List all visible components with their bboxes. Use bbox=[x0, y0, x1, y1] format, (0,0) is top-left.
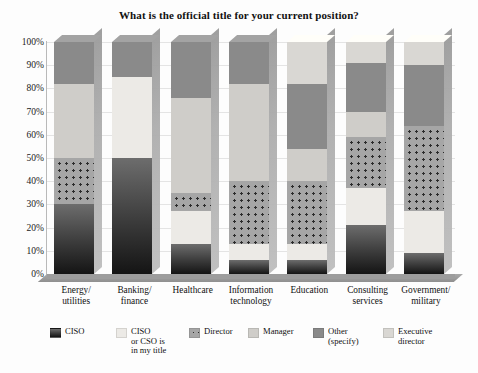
x-category-label-line: services bbox=[334, 296, 400, 307]
bar-segment-other[interactable] bbox=[54, 42, 94, 84]
bar-segment-manager[interactable] bbox=[346, 112, 386, 138]
legend-swatch-execdir bbox=[383, 328, 394, 338]
chart-title: What is the official title for your curr… bbox=[0, 9, 478, 21]
bar-segment-ciso[interactable] bbox=[171, 244, 211, 274]
dot-pattern bbox=[54, 158, 94, 204]
bar-segment-ciso[interactable] bbox=[346, 225, 386, 274]
dot-pattern bbox=[190, 329, 199, 337]
x-category-label: Healthcare bbox=[160, 285, 226, 296]
bar-top-face bbox=[346, 35, 394, 42]
y-tick-label: 80% bbox=[27, 83, 44, 93]
y-tick-label: 20% bbox=[27, 223, 44, 233]
y-tick-label: 50% bbox=[27, 153, 44, 163]
y-tick-label: 60% bbox=[27, 130, 44, 140]
bar-segment-execdir[interactable] bbox=[287, 42, 327, 84]
bar-segment-ciso[interactable] bbox=[287, 260, 327, 274]
bar-segment-manager[interactable] bbox=[287, 149, 327, 181]
bar-stack bbox=[346, 42, 386, 274]
bar-segment-manager[interactable] bbox=[54, 84, 94, 158]
bar-segment-ciso[interactable] bbox=[229, 260, 269, 274]
x-category-label-line: technology bbox=[218, 296, 284, 307]
bar-column[interactable] bbox=[404, 42, 444, 274]
bar-stack bbox=[287, 42, 327, 274]
x-category-label-line: Energy/ bbox=[43, 285, 109, 296]
bar-side-face bbox=[444, 28, 452, 274]
bar-segment-cisotitle[interactable] bbox=[229, 244, 269, 260]
bar-column[interactable] bbox=[287, 42, 327, 274]
bar-column[interactable] bbox=[229, 42, 269, 274]
bar-series-group bbox=[47, 42, 455, 274]
bar-side-face bbox=[152, 28, 160, 274]
legend-item-cisotitle[interactable]: CISO or CSO is in my title bbox=[116, 327, 166, 356]
bar-stack bbox=[229, 42, 269, 274]
bar-side-face bbox=[211, 28, 219, 274]
x-category-label-line: utilities bbox=[43, 296, 109, 307]
x-category-label-line: Education bbox=[276, 285, 342, 296]
y-tick-label: 30% bbox=[27, 199, 44, 209]
bar-segment-execdir[interactable] bbox=[404, 42, 444, 65]
y-tick-label: 70% bbox=[27, 107, 44, 117]
bar-segment-director[interactable] bbox=[54, 158, 94, 204]
bar-segment-director[interactable] bbox=[171, 193, 211, 212]
bar-segment-cisotitle[interactable] bbox=[287, 244, 327, 260]
bar-segment-other[interactable] bbox=[229, 42, 269, 84]
x-category-label: Energy/utilities bbox=[43, 285, 109, 307]
bar-segment-cisotitle[interactable] bbox=[171, 211, 211, 243]
legend-item-other[interactable]: Other (specify) bbox=[313, 327, 359, 346]
bar-segment-ciso[interactable] bbox=[404, 253, 444, 274]
chart-container: What is the official title for your curr… bbox=[0, 0, 478, 373]
legend-label-other: Other (specify) bbox=[328, 327, 359, 346]
x-category-label: Education bbox=[276, 285, 342, 296]
bar-top-face bbox=[229, 35, 277, 42]
dot-pattern bbox=[229, 181, 269, 244]
bar-segment-execdir[interactable] bbox=[346, 42, 386, 63]
bar-segment-other[interactable] bbox=[171, 42, 211, 98]
y-tick-label: 10% bbox=[27, 246, 44, 256]
bar-column[interactable] bbox=[112, 42, 152, 274]
legend-swatch-cisotitle bbox=[116, 328, 127, 338]
chart-floor-front bbox=[47, 274, 455, 279]
dot-pattern bbox=[287, 181, 327, 244]
bar-segment-ciso[interactable] bbox=[54, 204, 94, 274]
bar-segment-cisotitle[interactable] bbox=[112, 77, 152, 158]
bar-segment-other[interactable] bbox=[287, 84, 327, 149]
bar-column[interactable] bbox=[54, 42, 94, 274]
legend-item-execdir[interactable]: Executive director bbox=[383, 327, 432, 346]
bar-column[interactable] bbox=[346, 42, 386, 274]
bar-segment-other[interactable] bbox=[404, 65, 444, 125]
bar-segment-director[interactable] bbox=[346, 137, 386, 188]
legend-swatch-manager bbox=[248, 328, 259, 338]
bar-segment-director[interactable] bbox=[229, 181, 269, 244]
bar-segment-other[interactable] bbox=[112, 42, 152, 77]
legend-label-execdir: Executive director bbox=[398, 327, 432, 346]
bar-segment-other[interactable] bbox=[346, 63, 386, 112]
x-category-label-line: finance bbox=[101, 296, 167, 307]
bar-segment-director[interactable] bbox=[287, 181, 327, 244]
bar-stack bbox=[112, 42, 152, 274]
bar-segment-cisotitle[interactable] bbox=[404, 211, 444, 253]
dot-pattern bbox=[346, 137, 386, 188]
legend-item-manager[interactable]: Manager bbox=[248, 327, 294, 338]
x-category-label-line: Healthcare bbox=[160, 285, 226, 296]
bar-segment-manager[interactable] bbox=[229, 84, 269, 181]
bar-segment-ciso[interactable] bbox=[112, 158, 152, 274]
bar-column[interactable] bbox=[171, 42, 211, 274]
legend-swatch-director bbox=[189, 328, 200, 338]
bar-side-face bbox=[269, 28, 277, 274]
bar-top-face bbox=[54, 35, 102, 42]
legend-label-ciso: CISO bbox=[65, 327, 85, 337]
y-tick-label: 40% bbox=[27, 176, 44, 186]
y-tick-label: 90% bbox=[27, 60, 44, 70]
x-category-label-line: Consulting bbox=[334, 285, 400, 296]
x-category-label: Consultingservices bbox=[334, 285, 400, 307]
dot-pattern bbox=[171, 193, 211, 212]
bar-segment-director[interactable] bbox=[404, 126, 444, 212]
bar-stack bbox=[404, 42, 444, 274]
legend-item-director[interactable]: Director bbox=[189, 327, 233, 338]
legend-item-ciso[interactable]: CISO bbox=[50, 327, 85, 338]
bar-segment-manager[interactable] bbox=[171, 98, 211, 193]
legend-swatch-other bbox=[313, 328, 324, 338]
x-category-label-line: Banking/ bbox=[101, 285, 167, 296]
x-category-label-line: military bbox=[393, 296, 459, 307]
bar-segment-cisotitle[interactable] bbox=[346, 188, 386, 225]
